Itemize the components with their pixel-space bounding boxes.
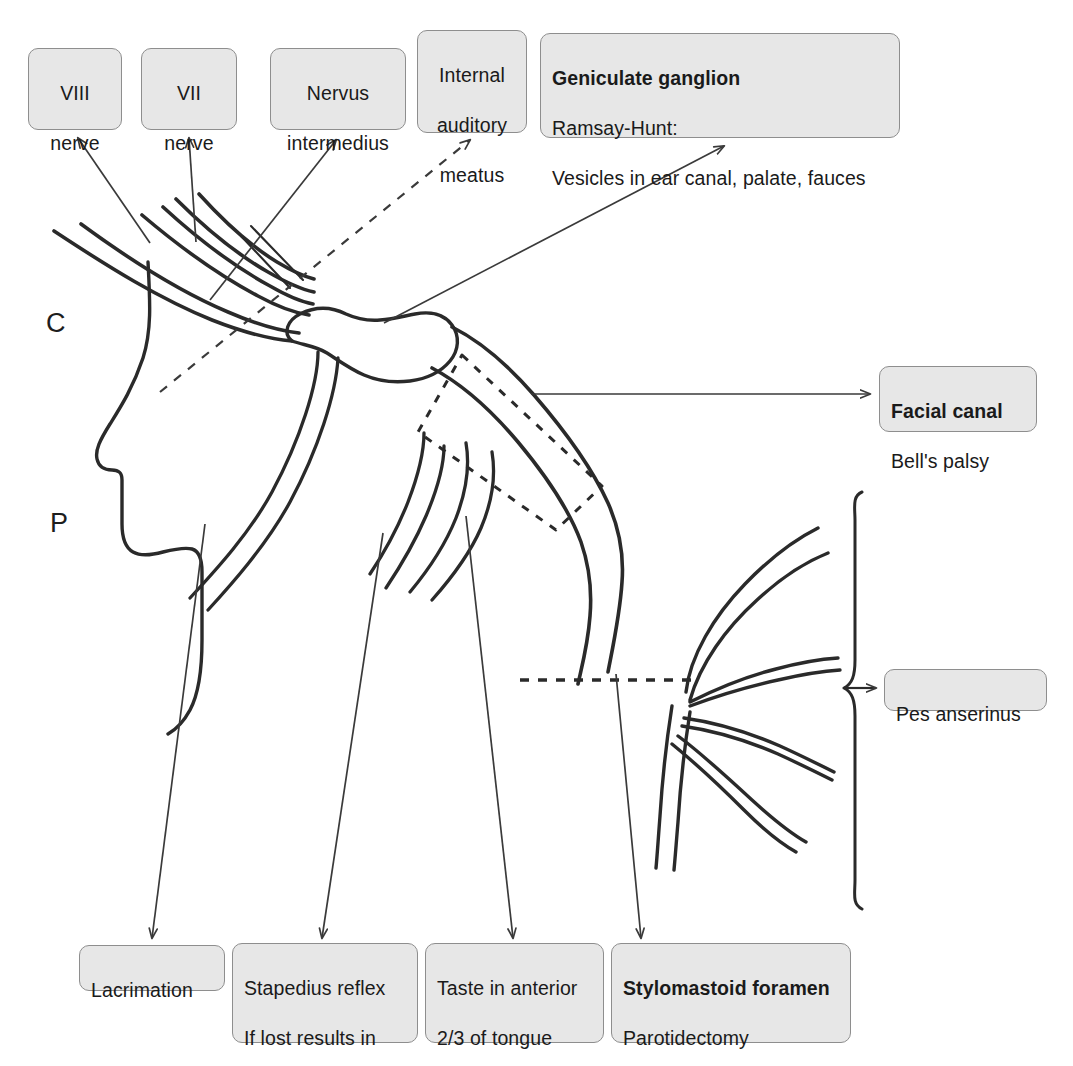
callout-line: Ramsay-Hunt: xyxy=(552,116,888,141)
callout-line: VII xyxy=(153,81,225,106)
callout-internal-auditory-meatus[interactable]: Internal auditory meatus xyxy=(417,30,527,133)
callout-line: auditory xyxy=(429,113,515,138)
head-profile-outline xyxy=(97,262,202,734)
anatomy-letter-p: P xyxy=(50,510,68,537)
callout-line: Pes anserinus xyxy=(896,702,1035,727)
callout-nervus-intermedius[interactable]: Nervus intermedius xyxy=(270,48,406,130)
callout-title: Stylomastoid foramen xyxy=(623,976,839,1001)
nerve-to-stapedius-branch xyxy=(370,433,444,588)
callout-line: Parotidectomy xyxy=(623,1026,839,1051)
anatomy-letter-c: C xyxy=(46,310,66,337)
callout-taste-salivation[interactable]: Taste in anterior 2/3 of tongue Salivati… xyxy=(425,943,604,1043)
facial-canal-dashed-outline xyxy=(418,355,602,530)
callout-line: meatus xyxy=(429,163,515,188)
callout-geniculate-ganglion[interactable]: Geniculate ganglion Ramsay-Hunt: Vesicle… xyxy=(540,33,900,138)
callout-stapedius-reflex[interactable]: Stapedius reflex If lost results in hype… xyxy=(232,943,418,1043)
callout-line: Vesicles in ear canal, palate, fauces xyxy=(552,166,888,191)
callout-vii-nerve[interactable]: VII nerve xyxy=(141,48,237,130)
callout-title: Facial canal xyxy=(891,399,1025,424)
greater-petrosal-nerve-branch xyxy=(190,352,338,610)
callout-title: Geniculate ganglion xyxy=(552,66,888,91)
callout-line: intermedius xyxy=(282,131,394,156)
callout-viii-nerve[interactable]: VIII nerve xyxy=(28,48,122,130)
callout-line: Internal xyxy=(429,63,515,88)
nerve-root-bundles xyxy=(54,194,314,341)
pes-anserinus-brace xyxy=(844,492,876,909)
callout-pes-anserinus[interactable]: Pes anserinus xyxy=(884,669,1047,711)
diagram-canvas: C P VIII nerve VII nerve Nervus intermed… xyxy=(0,0,1073,1066)
callout-line: Nervus xyxy=(282,81,394,106)
callout-line: nerve xyxy=(40,131,110,156)
callout-line: 2/3 of tongue xyxy=(437,1026,592,1051)
callout-line: Lacrimation xyxy=(91,978,213,1003)
callout-line: Taste in anterior xyxy=(437,976,592,1001)
pes-anserinus-branches xyxy=(656,528,840,870)
callout-stylomastoid-foramen[interactable]: Stylomastoid foramen Parotidectomy Parot… xyxy=(611,943,851,1043)
callout-line: Bell's palsy xyxy=(891,449,1025,474)
geniculate-ganglion-node xyxy=(287,308,457,381)
callout-line: nerve xyxy=(153,131,225,156)
callout-facial-canal[interactable]: Facial canal Bell's palsy xyxy=(879,366,1037,432)
callout-line: If lost results in xyxy=(244,1026,406,1051)
callout-line: VIII xyxy=(40,81,110,106)
callout-line: Stapedius reflex xyxy=(244,976,406,1001)
callout-lacrimation[interactable]: Lacrimation xyxy=(79,945,225,991)
